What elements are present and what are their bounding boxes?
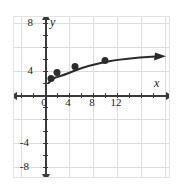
x-axis-label: x xyxy=(154,76,159,91)
y-tick-label-neg8: -8 xyxy=(9,160,29,172)
y-tick-label-4: 4 xyxy=(13,64,33,76)
data-point xyxy=(102,57,109,64)
data-point xyxy=(54,69,61,76)
x-tick-label-8: 8 xyxy=(82,96,102,108)
data-point xyxy=(48,75,55,82)
chart-container: 0 4 8 12 8 4 -4 -8 y x xyxy=(0,0,180,193)
y-tick-label-8: 8 xyxy=(13,16,33,28)
y-tick-label-neg4: -4 xyxy=(9,136,29,148)
y-axis-label: y xyxy=(50,15,55,30)
data-point xyxy=(72,63,79,70)
curve-arrow-icon xyxy=(154,53,166,61)
x-tick-label-12: 12 xyxy=(106,96,126,108)
x-tick-label-4: 4 xyxy=(58,96,78,108)
x-tick-label-0: 0 xyxy=(34,96,54,108)
